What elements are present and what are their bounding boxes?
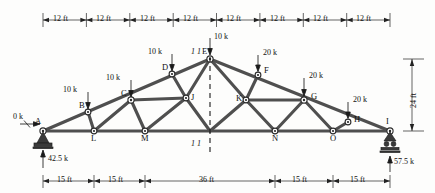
reaction-label-I: 57.5 k [394, 158, 414, 166]
load-arrow-B [86, 92, 91, 109]
truss-drawing-canvas [0, 0, 435, 193]
truss-diagram-figure: 12 ft 12 ft 12 ft 12 ft 12 ft 12 ft 12 f… [0, 0, 435, 193]
member-K-N [246, 100, 275, 131]
member-K-center [210, 100, 246, 131]
top-dimension-label-6: 12 ft [270, 15, 285, 23]
load-label-C: 10 k [106, 74, 120, 82]
top-dimension-label-1: 12 ft [53, 15, 68, 23]
top-dimension-label-8: 12 ft [356, 15, 371, 23]
load-label-H: 20 k [353, 96, 367, 104]
member-J-M [145, 98, 186, 131]
top-dimension-label-7: 12 ft [313, 15, 328, 23]
node-label-G: G [311, 92, 317, 101]
reaction-arrow-A [41, 150, 46, 168]
load-label-B: 10 k [63, 86, 77, 94]
member-C-L [94, 100, 131, 131]
member-D-J [172, 74, 186, 98]
bottom-dimension-label-1: 15 ft [57, 176, 72, 184]
node-label-M: M [141, 134, 149, 143]
load-arrow-G [302, 78, 307, 96]
node-label-A: A [35, 117, 41, 126]
reaction-arrows [41, 150, 393, 172]
node-label-C: C [121, 89, 127, 98]
load-label-A: 0 k [13, 113, 23, 121]
load-label-F: 20 k [263, 49, 277, 57]
bottom-dimension-label-4: 15 ft [292, 176, 307, 184]
bottom-dimension-label-2: 15 ft [108, 176, 123, 184]
member-G-N [275, 100, 304, 131]
node-label-E: E [202, 47, 207, 56]
support-roller-I [380, 132, 400, 153]
node-label-B: B [79, 101, 85, 110]
load-label-D: 10 k [148, 48, 162, 56]
node-label-F: F [264, 66, 269, 75]
member-C-J [131, 98, 186, 100]
node-label-K: K [236, 94, 242, 103]
top-dimension-label-3: 12 ft [140, 15, 155, 23]
height-dimension-label: 24 ft [410, 93, 418, 108]
node-label-I: I [386, 117, 389, 126]
reaction-label-A: 42.5 k [48, 155, 68, 163]
top-dimension-label-4: 12 ft [183, 15, 198, 23]
node-label-J: J [191, 93, 194, 102]
node-label-L: L [91, 134, 96, 143]
load-arrow-F [256, 55, 261, 72]
node-label-N: N [272, 134, 278, 143]
load-arrow-D [170, 54, 175, 71]
section-label-top: 1 1 [191, 48, 201, 56]
member-C-M [131, 100, 145, 131]
section-label-bottom: 1 1 [191, 140, 201, 148]
load-label-E: 10 k [214, 33, 228, 41]
load-arrows [20, 38, 350, 128]
top-dimension-label-5: 12 ft [226, 15, 241, 23]
member-G-O [304, 100, 333, 131]
node-label-O: O [330, 134, 336, 143]
node-label-H: H [354, 115, 360, 124]
truss-members [43, 59, 390, 131]
reaction-arrow-I [388, 156, 393, 172]
top-dimension-label-2: 12 ft [96, 15, 111, 23]
member-K-F [246, 75, 258, 100]
member-J-center [186, 98, 210, 131]
bottom-dimension-label-5: 15 ft [350, 176, 365, 184]
bottom-dimension-label-3: 36 ft [199, 176, 214, 184]
node-label-D: D [162, 63, 168, 72]
load-label-G: 20 k [309, 72, 323, 80]
support-pin-A [33, 132, 53, 149]
